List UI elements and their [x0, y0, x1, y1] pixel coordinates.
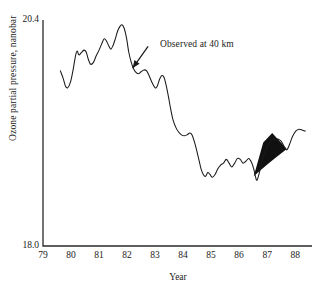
x-tick-label: 84: [178, 251, 188, 261]
ozone-chart-figure: Ozone partial pressure, nanobar Year Obs…: [0, 0, 331, 300]
y-tick-label: 18.0: [12, 241, 39, 251]
x-tick-label: 79: [38, 251, 48, 261]
y-tick-label: 20.4: [12, 15, 39, 25]
x-tick-label: 88: [290, 251, 300, 261]
axes-group: [43, 20, 312, 246]
x-axis-title: Year: [169, 272, 187, 282]
x-tick-label: 86: [234, 251, 244, 261]
annotation-arrow-group: [133, 46, 148, 68]
filled-region: [254, 133, 287, 176]
annotation-arrowhead: [133, 60, 140, 68]
x-tick-label: 81: [94, 251, 104, 261]
x-tick-label: 87: [262, 251, 272, 261]
y-axis-title: Ozone partial pressure, nanobar: [8, 16, 18, 141]
x-tick-label: 83: [150, 251, 160, 261]
axis-lines: [43, 20, 312, 246]
x-tick-label: 82: [122, 251, 132, 261]
x-tick-label: 85: [206, 251, 216, 261]
annotation-label: Observed at 40 km: [160, 39, 234, 49]
x-tick-label: 80: [66, 251, 76, 261]
